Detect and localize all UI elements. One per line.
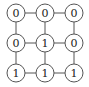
grid-node: 0: [65, 4, 83, 22]
node-value: 1: [42, 67, 49, 80]
node-value: 0: [13, 37, 20, 50]
grid-node: 1: [36, 64, 54, 82]
node-value: 1: [71, 67, 78, 80]
nodes: 000010111: [7, 4, 83, 82]
grid-node: 0: [36, 4, 54, 22]
node-value: 0: [71, 37, 78, 50]
node-value: 0: [42, 7, 49, 20]
node-value: 0: [71, 7, 78, 20]
grid-node: 0: [7, 34, 25, 52]
grid-node: 1: [36, 34, 54, 52]
grid-node: 0: [7, 4, 25, 22]
grid-node: 1: [65, 64, 83, 82]
grid-node: 0: [65, 34, 83, 52]
grid-diagram: 000010111: [0, 0, 89, 87]
grid-node: 1: [7, 64, 25, 82]
node-value: 0: [13, 7, 20, 20]
node-value: 1: [42, 37, 49, 50]
grid-graph-svg: 000010111: [0, 0, 89, 87]
node-value: 1: [13, 67, 20, 80]
